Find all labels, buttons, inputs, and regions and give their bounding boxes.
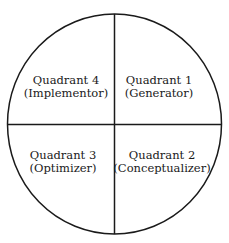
quadrant-4-subtitle: (Implementor): [24, 86, 108, 100]
quadrant-2-subtitle: (Conceptualizer): [113, 161, 210, 175]
quadrant-4: Quadrant 4 (Implementor): [24, 73, 108, 100]
quadrant-3-title: Quadrant 3: [30, 148, 96, 162]
quadrant-1-subtitle: (Generator): [125, 86, 194, 100]
quadrant-4-title: Quadrant 4: [33, 73, 99, 87]
quadrant-1-title: Quadrant 1: [126, 73, 192, 87]
quadrant-1: Quadrant 1 (Generator): [125, 73, 194, 100]
quadrant-diagram: Quadrant 4 (Implementor) Quadrant 1 (Gen…: [0, 0, 229, 243]
quadrant-3: Quadrant 3 (Optimizer): [29, 148, 96, 175]
quadrant-2-title: Quadrant 2: [129, 148, 195, 162]
quadrant-3-subtitle: (Optimizer): [29, 161, 96, 175]
